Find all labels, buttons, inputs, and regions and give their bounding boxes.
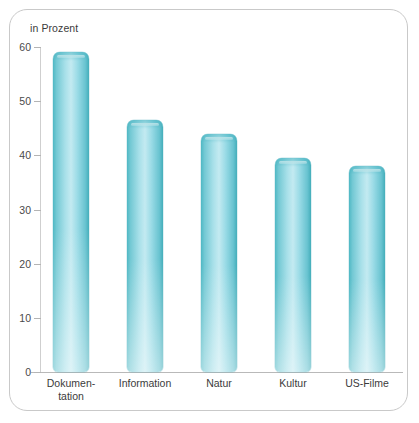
y-axis-title: in Prozent <box>30 22 78 34</box>
category-label-us-filme: US-Filme <box>313 377 419 390</box>
x-axis-line <box>31 372 403 373</box>
y-tick-label-60: 60 <box>7 41 31 53</box>
y-tick-mark-40 <box>34 155 41 156</box>
y-tick-mark-0 <box>34 372 41 373</box>
y-tick-label-30: 30 <box>7 204 31 216</box>
category-label-line-2: tation <box>17 390 125 403</box>
bar-chart: in Prozent 60 50 40 30 20 10 0 Dokumen- … <box>0 0 419 423</box>
y-tick-mark-50 <box>34 101 41 102</box>
y-tick-mark-60 <box>34 47 41 48</box>
y-tick-mark-30 <box>34 210 41 211</box>
y-tick-label-10: 10 <box>7 312 31 324</box>
y-tick-label-50: 50 <box>7 95 31 107</box>
y-tick-mark-20 <box>34 264 41 265</box>
bar-kultur[interactable] <box>275 158 311 372</box>
bar-information[interactable] <box>127 120 163 372</box>
y-tick-label-20: 20 <box>7 258 31 270</box>
bar-dokumentation[interactable] <box>53 52 89 372</box>
y-tick-mark-10 <box>34 318 41 319</box>
bar-natur[interactable] <box>201 134 237 372</box>
y-tick-label-40: 40 <box>7 149 31 161</box>
category-label-line-1: US-Filme <box>313 377 419 390</box>
bar-us-filme[interactable] <box>349 166 385 372</box>
